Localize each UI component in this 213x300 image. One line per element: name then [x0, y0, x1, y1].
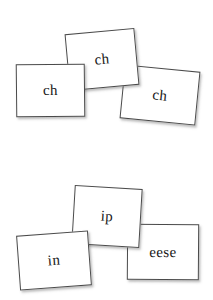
word-card-label: ch	[152, 87, 168, 103]
word-card-ch-left[interactable]: ch	[16, 64, 86, 118]
card-group-top: ch ch ch	[0, 0, 213, 150]
card-stage: ch ch ch eese ip in	[0, 0, 213, 300]
word-card-label: ip	[100, 209, 113, 225]
word-card-label: ch	[94, 51, 110, 67]
word-card-label: eese	[149, 244, 177, 259]
word-card-label: in	[47, 253, 61, 269]
word-card-label: ch	[43, 83, 58, 98]
word-card-in-left[interactable]: in	[16, 230, 92, 290]
card-group-bottom: eese ip in	[0, 150, 213, 300]
